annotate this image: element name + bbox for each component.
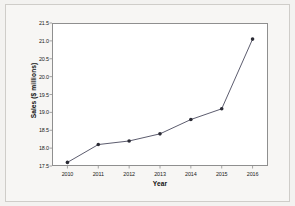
y-tick-label: 18.0 <box>39 145 49 151</box>
x-tick-label: 2014 <box>185 171 197 177</box>
x-tick-label: 2016 <box>247 171 259 177</box>
x-tick-label: 2012 <box>123 171 135 177</box>
y-tick-label: 19.5 <box>39 92 49 98</box>
data-point-marker <box>220 107 224 111</box>
x-axis-title: Year <box>52 180 268 187</box>
y-tick-label: 19.0 <box>39 109 49 115</box>
y-axis-tick-marks <box>50 23 53 166</box>
x-tick-label: 2013 <box>154 171 166 177</box>
data-point-markers <box>66 37 255 164</box>
data-point-marker <box>66 161 70 165</box>
y-tick-label: 21.0 <box>39 38 49 44</box>
data-point-marker <box>96 143 100 147</box>
x-tick-label: 2011 <box>93 171 104 177</box>
x-tick-label: 2015 <box>216 171 228 177</box>
data-point-marker <box>251 37 255 41</box>
y-axis-title: Sales ($ millions) <box>30 19 37 162</box>
data-point-marker <box>189 118 193 122</box>
data-point-marker <box>158 132 162 136</box>
sales-trend-line <box>67 39 252 162</box>
chart-figure: 17.518.018.519.019.520.020.521.021.5 201… <box>0 0 295 206</box>
y-tick-label: 20.0 <box>39 74 49 80</box>
y-tick-label: 21.5 <box>39 20 49 26</box>
y-tick-label: 20.5 <box>39 56 49 62</box>
y-tick-label: 17.5 <box>39 163 49 169</box>
y-tick-label: 18.5 <box>39 127 49 133</box>
x-axis-tick-marks <box>67 166 252 169</box>
data-point-marker <box>127 139 131 143</box>
x-tick-label: 2010 <box>62 171 74 177</box>
